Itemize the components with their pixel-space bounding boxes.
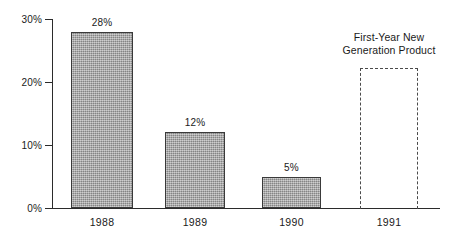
y-axis-line	[52, 19, 53, 209]
dashed-placeholder-1991	[360, 68, 418, 209]
y-tick-30	[45, 19, 52, 20]
bar-1988	[71, 32, 133, 208]
x-axis-label-1989: 1989	[165, 216, 225, 228]
bar-chart: 0% 10% 20% 30% 28% 12% 5% First-Year New…	[0, 0, 458, 243]
x-axis-label-1990: 1990	[262, 216, 321, 228]
bar-1989	[165, 132, 225, 208]
x-axis-label-1991: 1991	[360, 216, 418, 228]
y-tick-0	[45, 208, 52, 209]
bar-value-label-1990: 5%	[262, 162, 321, 173]
y-tick-20	[45, 82, 52, 83]
annotation-line-2: Generation Product	[309, 44, 458, 57]
y-tick-label-0: 0%	[0, 203, 42, 214]
annotation-line-1: First-Year New	[309, 31, 458, 44]
bar-value-label-1989: 12%	[165, 117, 225, 128]
y-tick-label-20: 20%	[0, 77, 42, 88]
y-tick-label-10: 10%	[0, 140, 42, 151]
y-tick-label-30: 30%	[0, 14, 42, 25]
x-axis-label-1988: 1988	[71, 216, 133, 228]
bar-1990	[262, 177, 321, 208]
bar-value-label-1988: 28%	[71, 17, 133, 28]
y-tick-10	[45, 145, 52, 146]
